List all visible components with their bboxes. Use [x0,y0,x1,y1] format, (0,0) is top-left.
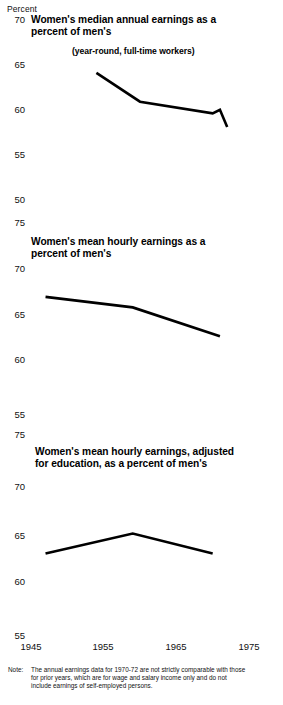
panel2-ytick-65: 65 [3,309,25,320]
panel3-ytick-70: 70 [3,481,25,492]
panel2-ytick-70: 70 [3,263,25,274]
panel1-series-line [96,73,227,127]
panel3-series-line [46,534,213,554]
y-axis-unit-label: Percent [7,4,37,14]
note-label: Note: [8,666,23,674]
xtick-1945: 1945 [11,641,51,652]
panel3-title-line2: for education, as a percent of men's [35,458,207,470]
note-text: The annual earnings data for 1970-72 are… [31,666,246,691]
panel1-subtitle: (year-round, full-time workers) [72,46,195,56]
panel1-title-line2: percent of men's [31,26,111,38]
panel2-title-line1: Women's mean hourly earnings as a [31,236,205,248]
panel1-ytick-50: 50 [3,194,25,205]
panel2-ytick-60: 60 [3,354,25,365]
panel3-ytick-65: 65 [3,530,25,541]
panel1-ytick-55: 55 [3,149,25,160]
panel2-series-line [46,297,220,336]
panel3-ytick-55: 55 [3,630,25,641]
panel1-ytick-60: 60 [3,104,25,115]
chart-plot-layer [0,0,283,705]
panel3-title-line1: Women's mean hourly earnings, adjusted [35,446,234,458]
panel1-ytick-70: 70 [3,14,25,25]
panel2-title-line2: percent of men's [31,248,111,260]
panel2-ytick-75: 75 [3,217,25,228]
xtick-1955: 1955 [83,641,123,652]
panel2-ytick-55: 55 [3,409,25,420]
xtick-1965: 1965 [156,641,196,652]
panel1-ytick-65: 65 [3,59,25,70]
xtick-1975: 1975 [229,641,269,652]
figure-root: Percent 70 65 60 55 50 Women's median an… [0,0,283,705]
panel1-title-line1: Women's median annual earnings as a [31,14,216,26]
panel3-ytick-75: 75 [3,429,25,440]
panel3-ytick-60: 60 [3,576,25,587]
